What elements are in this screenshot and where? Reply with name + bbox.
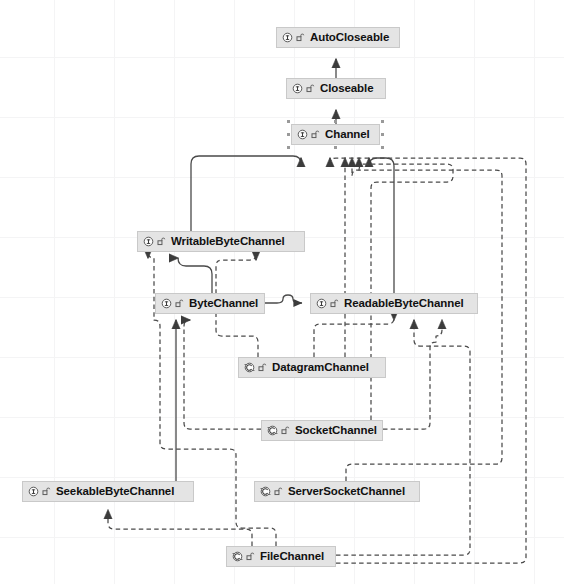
visibility-public-icon [281,426,290,435]
edge-file-seekable [108,510,252,546]
interface-icon [161,298,172,309]
class-node-label: AutoCloseable [310,32,389,44]
visibility-public-icon [258,363,267,372]
interface-icon [297,129,308,140]
edge-socket-readable [383,320,442,429]
class-node-bytechannel[interactable]: ByteChannel [155,293,265,314]
edge-datagram-readable [314,318,394,357]
visibility-public-icon [157,237,166,246]
visibility-public-icon [306,84,315,93]
class-node-datagramchannel[interactable]: DatagramChannel [238,357,386,378]
visibility-public-icon [175,299,184,308]
class-node-label: FileChannel [260,551,324,563]
interface-icon [282,32,293,43]
visibility-public-icon [330,299,339,308]
class-node-label: SocketChannel [295,425,377,437]
class-node-writablebytechannel[interactable]: WritableByteChannel [137,231,305,252]
class-node-serversocketchannel[interactable]: ServerSocketChannel [254,481,420,502]
class-node-closeable[interactable]: Closeable [286,78,386,99]
class-node-readablebytechannel[interactable]: ReadableByteChannel [310,293,478,314]
class-node-seekablebytechannel[interactable]: SeekableByteChannel [22,481,194,502]
interface-icon [316,298,327,309]
diagram-canvas[interactable]: AutoCloseableCloseableChannelWritableByt… [0,0,564,584]
class-node-label: Channel [325,129,370,141]
edge-socket-channel [359,158,453,420]
visibility-public-icon [246,552,255,561]
visibility-public-icon [311,130,320,139]
abstract-class-icon [244,362,255,373]
edge-readable-channel [369,158,394,293]
class-node-socketchannel[interactable]: SocketChannel [261,420,383,441]
class-node-label: Closeable [320,83,373,95]
edge-bytechannel-writable [178,258,212,293]
visibility-public-icon [296,33,305,42]
class-node-label: DatagramChannel [272,362,369,374]
abstract-class-icon [267,425,278,436]
class-node-label: SeekableByteChannel [56,486,174,498]
edge-writable-channel [191,156,301,231]
class-node-autocloseable[interactable]: AutoCloseable [276,27,400,48]
class-node-channel[interactable]: Channel [291,124,380,145]
interface-icon [143,236,154,247]
class-node-label: ReadableByteChannel [344,298,464,310]
abstract-class-icon [232,551,243,562]
class-node-label: ByteChannel [189,298,258,310]
class-node-label: ServerSocketChannel [288,486,405,498]
visibility-public-icon [42,487,51,496]
interface-icon [28,486,39,497]
interface-icon [292,83,303,94]
class-node-label: WritableByteChannel [171,236,285,248]
edge-bytechannel-readable [265,295,302,303]
class-node-filechannel[interactable]: FileChannel [226,546,336,567]
abstract-class-icon [260,486,271,497]
visibility-public-icon [274,487,283,496]
